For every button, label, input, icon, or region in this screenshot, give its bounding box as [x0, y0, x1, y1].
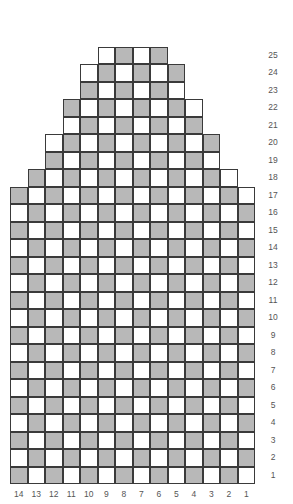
chart-cell [63, 327, 81, 345]
chart-cell [80, 362, 98, 380]
chart-cell [168, 169, 186, 187]
column-tick-label: 9 [98, 490, 116, 499]
chart-cell [10, 327, 28, 345]
row-tick-label: 1 [262, 471, 284, 480]
chart-cell [220, 239, 238, 257]
chart-cell [98, 414, 116, 432]
chart-cell [10, 432, 28, 450]
chart-cell [220, 327, 238, 345]
chart-cell [168, 64, 186, 82]
chart-cell [63, 134, 81, 152]
chart-cell [238, 397, 256, 415]
row-tick-label: 7 [262, 366, 284, 375]
row-tick-label: 9 [262, 331, 284, 340]
chart-cell [133, 449, 151, 467]
row-tick-label: 20 [262, 138, 284, 147]
chart-cell [45, 327, 63, 345]
chart-cell [80, 344, 98, 362]
chart-cell [63, 344, 81, 362]
chart-cell [115, 152, 133, 170]
chart-cell [98, 362, 116, 380]
chart-cell [115, 344, 133, 362]
chart-cell [10, 274, 28, 292]
chart-cell [133, 204, 151, 222]
chart-cell [150, 187, 168, 205]
chart-cell [133, 362, 151, 380]
chart-cell [150, 309, 168, 327]
column-tick-label: 8 [115, 490, 133, 499]
chart-cell [220, 362, 238, 380]
chart-cell [185, 239, 203, 257]
chart-cell [63, 362, 81, 380]
chart-cell [185, 99, 203, 117]
chart-cell [150, 239, 168, 257]
row-tick-label: 18 [262, 173, 284, 182]
chart-cell [168, 414, 186, 432]
chart-cell [220, 292, 238, 310]
chart-cell [80, 117, 98, 135]
chart-cell [133, 309, 151, 327]
chart-cell [45, 134, 63, 152]
chart-cell [220, 344, 238, 362]
chart-cell [10, 292, 28, 310]
column-tick-label: 6 [150, 490, 168, 499]
column-tick-label: 14 [10, 490, 28, 499]
chart-cell [168, 82, 186, 100]
chart-cell [168, 397, 186, 415]
chart-cell [133, 432, 151, 450]
chart-cell [203, 152, 221, 170]
chart-cell [185, 344, 203, 362]
chart-cell [45, 344, 63, 362]
chart-cell [63, 257, 81, 275]
chart-cell [185, 327, 203, 345]
chart-cell [150, 327, 168, 345]
chart-cell [203, 449, 221, 467]
row-tick-label: 13 [262, 261, 284, 270]
chart-cell [80, 414, 98, 432]
chart-cell [203, 204, 221, 222]
chart-cell [203, 327, 221, 345]
chart-cell [98, 152, 116, 170]
chart-cell [133, 187, 151, 205]
chart-cell [10, 397, 28, 415]
chart-cell [150, 64, 168, 82]
chart-cell [220, 187, 238, 205]
chart-cell [133, 152, 151, 170]
chart-cell [115, 169, 133, 187]
chart-cell [98, 327, 116, 345]
chart-cell [63, 432, 81, 450]
chart-cell [98, 379, 116, 397]
chart-cell [80, 449, 98, 467]
chart-cell [80, 99, 98, 117]
row-tick-label: 6 [262, 383, 284, 392]
chart-cell [238, 414, 256, 432]
chart-cell [150, 152, 168, 170]
chart-cell [98, 344, 116, 362]
chart-cell [185, 257, 203, 275]
column-tick-label: 11 [63, 490, 81, 499]
column-tick-label: 12 [45, 490, 63, 499]
chart-cell [220, 274, 238, 292]
chart-cell [133, 414, 151, 432]
chart-cell [168, 344, 186, 362]
chart-cell [203, 169, 221, 187]
chart-cell [203, 432, 221, 450]
chart-cell [220, 467, 238, 485]
chart-cell [115, 292, 133, 310]
chart-cell [28, 257, 46, 275]
chart-cell [115, 379, 133, 397]
chart-cell [203, 222, 221, 240]
chart-cell [98, 82, 116, 100]
chart-cell [133, 99, 151, 117]
chart-cell [185, 449, 203, 467]
chart-grid: 2524232221201918171615141312111098765432… [0, 0, 293, 504]
chart-cell [80, 467, 98, 485]
chart-cell [10, 414, 28, 432]
chart-cell [185, 432, 203, 450]
chart-cell [115, 274, 133, 292]
chart-cell [238, 327, 256, 345]
row-tick-label: 10 [262, 313, 284, 322]
chart-cell [150, 467, 168, 485]
chart-cell [150, 169, 168, 187]
chart-cell [28, 274, 46, 292]
